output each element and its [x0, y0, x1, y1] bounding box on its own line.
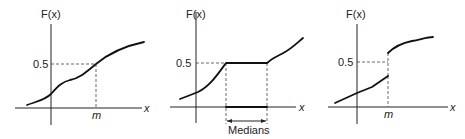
panel-jump-median: F(x) x 0.5 m [328, 8, 456, 124]
x-tick-m: m [92, 109, 101, 121]
y-axis-label: F(x) [346, 8, 366, 20]
arrow-left-icon [227, 119, 232, 123]
arrow-right-icon [261, 119, 266, 123]
panel-interval-median: F(x) x 0.5 Medians [170, 8, 305, 136]
y-tick-half: 0.5 [33, 58, 48, 70]
x-tick-m: m [384, 108, 393, 120]
x-axis-label: x [298, 101, 305, 113]
x-axis-label: x [449, 101, 456, 113]
cdf-curve [27, 42, 144, 105]
medians-label: Medians [228, 124, 270, 136]
y-axis-label: F(x) [186, 8, 206, 20]
cdf-curve-lower [335, 76, 388, 103]
y-tick-half: 0.5 [338, 56, 353, 68]
panel-unique-median: F(x) x 0.5 m [15, 8, 150, 125]
x-axis-label: x [143, 102, 150, 114]
cdf-curve [180, 38, 303, 99]
y-tick-half: 0.5 [176, 57, 191, 69]
cdf-curve-upper [388, 37, 433, 53]
median-diagram: F(x) x 0.5 m F(x) x 0.5 Medians F(x) x 0… [0, 0, 465, 139]
y-axis-label: F(x) [41, 8, 61, 20]
